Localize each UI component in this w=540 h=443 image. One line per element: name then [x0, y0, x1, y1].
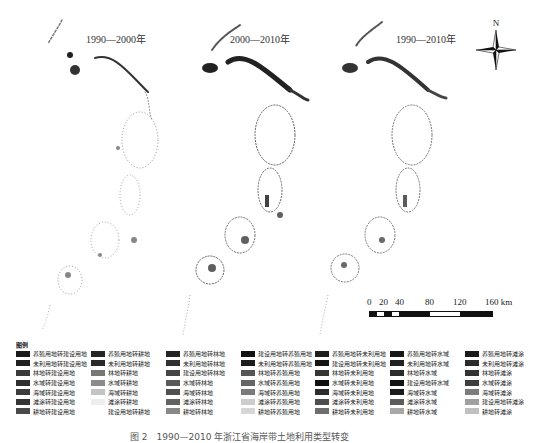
legend-item: 海域转未利用地 — [315, 387, 390, 397]
legend-item: 养殖用地转建设用地 — [16, 349, 91, 359]
legend-swatch — [241, 389, 255, 395]
legend-swatch — [16, 380, 30, 386]
legend-swatch — [166, 360, 180, 366]
legend-item: 林地转耕地 — [91, 368, 166, 378]
legend-label: 林地转水域 — [407, 368, 437, 377]
legend-label: 养殖用地转林地 — [183, 349, 225, 358]
legend-label: 海域转未利用地 — [332, 388, 374, 397]
scale-tick-label: 120 — [453, 297, 467, 307]
legend-swatch — [91, 380, 105, 386]
legend-label: 水域转养殖用地 — [258, 378, 300, 387]
scale-bar: 0 20 40 80 120 160 km — [362, 297, 540, 323]
legend-swatch — [241, 399, 255, 405]
legend-swatch — [91, 389, 105, 395]
legend-label: 耕地转未利用地 — [332, 407, 374, 416]
legend-swatch — [16, 399, 30, 405]
panel-title: 1990—2000年 — [86, 31, 146, 46]
legend-swatch — [315, 351, 329, 357]
legend-item: 未利用地转养殖用地 — [241, 359, 316, 369]
legend-swatch — [91, 408, 105, 414]
legend-label: 林地转未利用地 — [332, 368, 374, 377]
legend-item: 林地转水域 — [390, 368, 465, 378]
legend-label: 滩涂转未利用地 — [332, 397, 374, 406]
legend-item: 林地转养殖用地 — [241, 368, 316, 378]
legend-label: 建设用地转水域 — [407, 378, 449, 387]
legend-item: 未利用地转林地 — [166, 359, 241, 369]
figure-caption: 图 2 1990—2010 年浙江省海岸带土地利用类型转变 — [130, 430, 349, 443]
legend-label: 滩涂转水域 — [407, 397, 437, 406]
legend-swatch — [166, 408, 180, 414]
legend-label: 水域转滩涂 — [482, 378, 512, 387]
legend-swatch — [390, 408, 404, 414]
legend-label: 养殖用地转未利用地 — [332, 349, 386, 358]
legend-swatch — [91, 360, 105, 366]
legend-swatch — [166, 389, 180, 395]
legend-swatch — [315, 370, 329, 376]
panel-title: 1990—2010年 — [396, 31, 456, 46]
legend-swatch — [315, 389, 329, 395]
legend-item: 未利用地转水域 — [390, 359, 465, 369]
legend-item: 海域转耕地 — [91, 387, 166, 397]
legend-label: 建设用地转养殖用地 — [258, 349, 312, 358]
legend-swatch — [465, 389, 479, 395]
legend-label: 耕地转养殖用地 — [258, 407, 300, 416]
legend-item: 建设用地转未利用地 — [315, 359, 390, 369]
legend-swatch — [390, 389, 404, 395]
legend-swatch — [16, 389, 30, 395]
legend-swatch — [465, 380, 479, 386]
legend-label: 滩涂转林地 — [183, 397, 213, 406]
legend-label: 建设用地转林地 — [183, 368, 225, 377]
legend-item: 养殖用地转滩涂 — [465, 349, 540, 359]
legend-swatch — [465, 351, 479, 357]
north-arrow: N — [468, 18, 524, 74]
legend-swatch — [91, 351, 105, 357]
legend-label: 海域转养殖用地 — [258, 388, 300, 397]
legend-swatch — [315, 408, 329, 414]
legend-label: 建设用地转未利用地 — [332, 359, 386, 368]
legend-item: 耕地转建设用地 — [16, 407, 91, 417]
legend-label: 滩涂转养殖用地 — [258, 397, 300, 406]
legend-item: 滩涂转建设用地 — [16, 397, 91, 407]
legend-label: 海域转建设用地 — [33, 388, 75, 397]
legend-swatch — [315, 399, 329, 405]
legend-label: 耕地转水域 — [407, 407, 437, 416]
legend-label: 水域转林地 — [183, 378, 213, 387]
legend-swatch — [465, 370, 479, 376]
panel-title: 2000—2010年 — [230, 31, 290, 46]
legend-item: 林地转未利用地 — [315, 368, 390, 378]
legend-label: 耕地转建设用地 — [33, 407, 75, 416]
legend-item: 水域转耕地 — [91, 378, 166, 388]
legend-label: 未利用地转养殖用地 — [258, 359, 312, 368]
legend-label: 水域转未利用地 — [332, 378, 374, 387]
legend-swatch — [166, 380, 180, 386]
legend-swatch — [390, 399, 404, 405]
legend-swatch — [315, 360, 329, 366]
legend-label: 耕地转滩涂 — [482, 407, 512, 416]
legend-label: 未利用地转耕地 — [108, 359, 150, 368]
legend-item: 滩涂转耕地 — [91, 397, 166, 407]
legend-item: 养殖用地转未利用地 — [315, 349, 390, 359]
legend-label: 未利用地转建设用地 — [33, 359, 87, 368]
legend-item: 滩涂转未利用地 — [315, 397, 390, 407]
legend-swatch — [16, 408, 30, 414]
scale-tick-label: 40 — [395, 297, 404, 307]
legend-swatch — [390, 360, 404, 366]
legend-item: 水域转养殖用地 — [241, 378, 316, 388]
legend-label: 养殖用地转耕地 — [108, 349, 150, 358]
scale-tick-label: 160 km — [485, 297, 512, 307]
legend: 养殖用地转建设用地未利用地转建设用地林地转建设用地水域转建设用地海域转建设用地滩… — [16, 349, 540, 419]
legend-label: 海域转水域 — [407, 388, 437, 397]
legend-swatch — [241, 380, 255, 386]
legend-swatch — [465, 399, 479, 405]
legend-item: 建设用地转养殖用地 — [241, 349, 316, 359]
legend-label: 林地转建设用地 — [33, 368, 75, 377]
legend-swatch — [91, 370, 105, 376]
legend-label: 林地转耕地 — [108, 368, 138, 377]
legend-swatch — [16, 360, 30, 366]
legend-swatch — [241, 351, 255, 357]
legend-label: 养殖用地转水域 — [407, 349, 449, 358]
legend-label: 耕地转林地 — [183, 407, 213, 416]
legend-label: 林地转滩涂 — [482, 368, 512, 377]
legend-swatch — [166, 370, 180, 376]
legend-item: 滩涂转林地 — [166, 397, 241, 407]
